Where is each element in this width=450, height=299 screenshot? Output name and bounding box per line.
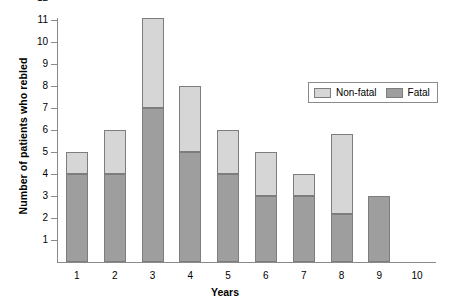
legend: Non-fatal Fatal xyxy=(308,82,438,103)
bar-segment-fatal xyxy=(66,174,88,262)
x-axis-title: Years xyxy=(0,286,450,298)
y-axis-tick xyxy=(51,86,57,87)
bar-segment-non-fatal xyxy=(293,174,315,196)
y-axis-tick xyxy=(51,130,57,131)
bar-year-7 xyxy=(293,174,315,262)
x-axis-tick-label: 2 xyxy=(102,271,128,281)
legend-item-non-fatal: Non-fatal xyxy=(314,88,377,98)
x-axis-tick-label: 5 xyxy=(215,271,241,281)
bar-year-3 xyxy=(142,18,164,262)
y-axis-tick-label: 12 xyxy=(0,0,48,3)
y-axis-tick-label: 8 xyxy=(0,81,48,91)
legend-item-fatal: Fatal xyxy=(386,88,430,98)
y-axis-tick xyxy=(51,152,57,153)
bar-segment-non-fatal xyxy=(104,130,126,174)
y-axis-tick-label: 1 xyxy=(0,235,48,245)
y-axis-line xyxy=(57,18,58,263)
y-axis-tick-label: 7 xyxy=(0,103,48,113)
x-axis-line xyxy=(57,262,436,263)
bar-year-5 xyxy=(217,130,239,262)
x-axis-tick-label: 7 xyxy=(291,271,317,281)
y-axis-tick-label: 4 xyxy=(0,169,48,179)
y-axis-tick xyxy=(51,64,57,65)
bar-segment-fatal xyxy=(331,214,353,262)
x-axis-tick-label: 3 xyxy=(140,271,166,281)
y-axis-tick-label: 9 xyxy=(0,59,48,69)
y-axis-tick-label: 5 xyxy=(0,147,48,157)
legend-label-fatal: Fatal xyxy=(408,88,430,98)
y-axis-tick-label: 10 xyxy=(0,37,48,47)
bar-year-9 xyxy=(368,196,390,262)
bar-segment-non-fatal xyxy=(331,134,353,213)
bar-year-8 xyxy=(331,134,353,262)
x-axis-tick-label: 1 xyxy=(64,271,90,281)
bar-segment-fatal xyxy=(293,196,315,262)
y-axis-tick-label: 3 xyxy=(0,191,48,201)
legend-label-non-fatal: Non-fatal xyxy=(336,88,377,98)
x-axis-tick-label: 8 xyxy=(329,271,355,281)
bar-segment-fatal xyxy=(368,196,390,262)
y-axis-tick xyxy=(51,240,57,241)
legend-swatch-fatal-icon xyxy=(386,88,403,98)
y-axis-tick xyxy=(51,196,57,197)
x-axis-tick-label: 9 xyxy=(366,271,392,281)
x-axis-tick-label: 6 xyxy=(253,271,279,281)
bar-year-6 xyxy=(255,152,277,262)
bar-year-1 xyxy=(66,152,88,262)
bar-segment-non-fatal xyxy=(255,152,277,196)
x-axis-tick-label: 10 xyxy=(404,271,430,281)
bar-segment-fatal xyxy=(255,196,277,262)
y-axis-tick xyxy=(51,20,57,21)
y-axis-tick xyxy=(51,174,57,175)
y-axis-tick-label: 6 xyxy=(0,125,48,135)
bar-chart: Number of patients who rebled 1234567891… xyxy=(0,0,450,299)
bar-year-2 xyxy=(104,130,126,262)
x-axis-tick-label: 4 xyxy=(177,271,203,281)
y-axis-tick xyxy=(51,42,57,43)
y-axis-tick xyxy=(51,108,57,109)
y-axis-tick-label: 2 xyxy=(0,213,48,223)
y-axis-tick-label: 11 xyxy=(0,15,48,25)
bar-segment-non-fatal xyxy=(179,86,201,152)
bar-year-4 xyxy=(179,86,201,262)
bar-segment-fatal xyxy=(142,108,164,262)
bar-segment-fatal xyxy=(217,174,239,262)
bar-segment-non-fatal xyxy=(217,130,239,174)
bar-segment-fatal xyxy=(179,152,201,262)
bar-segment-non-fatal xyxy=(66,152,88,174)
legend-swatch-non-fatal-icon xyxy=(314,88,331,98)
bar-segment-fatal xyxy=(104,174,126,262)
bar-segment-non-fatal xyxy=(142,18,164,108)
y-axis-tick xyxy=(51,218,57,219)
